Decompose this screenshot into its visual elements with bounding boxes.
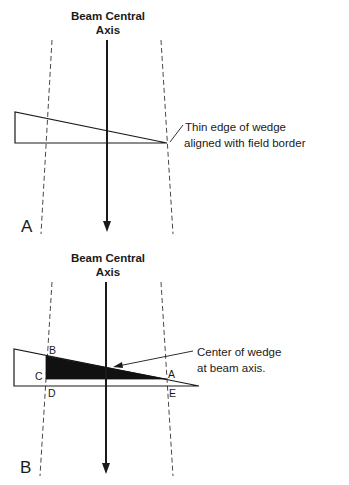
panel-a: Beam Central Axis Thin edge of wedge ali…: [15, 10, 306, 236]
point-label-d: D: [48, 387, 56, 399]
annotation-leader-b: [118, 351, 193, 366]
field-border-right-a: [161, 40, 173, 234]
point-label-e: E: [169, 387, 176, 399]
axis-label-a-line2: Axis: [96, 24, 120, 36]
annotation-b-line2: at beam axis.: [197, 362, 265, 374]
panel-label-b: B: [20, 458, 31, 477]
field-border-left-a: [41, 40, 52, 234]
arrowhead-icon: [103, 221, 111, 232]
axis-label-a-line1: Beam Central: [71, 10, 145, 22]
panel-b: Beam Central Axis Center of wedge at bea…: [14, 252, 281, 477]
annotation-a-line1: Thin edge of wedge: [185, 121, 286, 133]
point-label-b: B: [49, 344, 56, 356]
panel-label-a: A: [21, 217, 33, 236]
wedge-diagram: Beam Central Axis Thin edge of wedge ali…: [0, 0, 349, 485]
wedge-a: [15, 112, 167, 143]
axis-label-b-line1: Beam Central: [71, 252, 145, 264]
annotation-leader-a: [170, 125, 183, 142]
point-label-c: C: [35, 370, 43, 382]
annotation-a-line2: aligned with field border: [184, 137, 306, 149]
arrowhead-icon: [102, 463, 110, 474]
point-label-a: A: [168, 368, 175, 380]
axis-label-b-line2: Axis: [96, 266, 120, 278]
annotation-b-line1: Center of wedge: [197, 346, 281, 358]
arrowhead-icon: [113, 362, 123, 368]
